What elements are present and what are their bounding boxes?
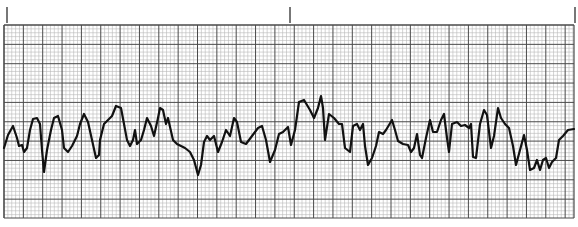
time-markers <box>7 7 575 23</box>
ecg-strip: ECG rhythm strip on grid paper <box>0 0 578 227</box>
ecg-chart <box>0 0 578 227</box>
ecg-trace <box>4 96 574 175</box>
